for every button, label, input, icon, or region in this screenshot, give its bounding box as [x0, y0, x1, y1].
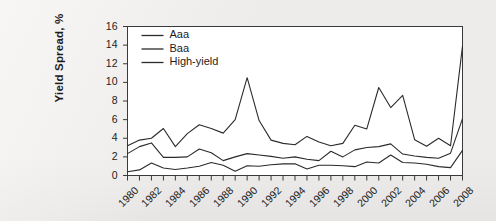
- y-tick-label: 8: [86, 94, 118, 106]
- legend-label-baa: Baa: [170, 42, 190, 54]
- legend-label-high-yield: High-yield: [170, 55, 219, 67]
- legend-label-aaa: Aaa: [170, 28, 190, 40]
- y-tick-label: 4: [86, 131, 118, 143]
- y-tick-label: 6: [86, 113, 118, 125]
- x-axis-ticks: [128, 176, 463, 181]
- y-tick-label: 12: [86, 57, 118, 69]
- chart-figure: Yield Spread, % 0246810121416 1980198219…: [0, 0, 496, 221]
- y-tick-label: 16: [86, 20, 118, 32]
- y-tick-label: 0: [86, 169, 118, 181]
- y-axis-ticks: [123, 27, 128, 176]
- y-axis-title: Yield Spread, %: [53, 0, 65, 123]
- y-tick-label: 14: [86, 38, 118, 50]
- y-tick-label: 2: [86, 150, 118, 162]
- y-tick-label: 10: [86, 75, 118, 87]
